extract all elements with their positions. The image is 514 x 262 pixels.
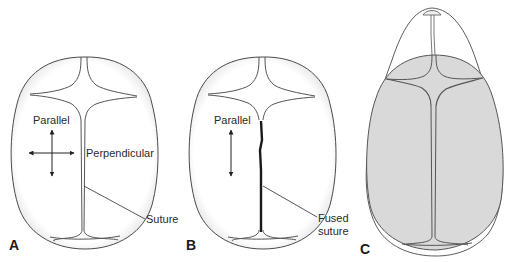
- label-suture-b: suture: [318, 225, 349, 237]
- panel-letter-b: B: [186, 237, 196, 253]
- panel-a: Parallel Perpendicular Suture A: [9, 57, 178, 253]
- label-perpendicular-a: Perpendicular: [86, 147, 154, 159]
- craniosynostosis-figure: Parallel Perpendicular Suture A Parallel…: [0, 0, 514, 262]
- panel-letter-a: A: [9, 237, 19, 253]
- label-parallel-b: Parallel: [214, 114, 251, 126]
- label-suture-a: Suture: [146, 213, 178, 225]
- panel-b: Parallel Fused suture B: [186, 57, 349, 253]
- panel-c: C: [360, 8, 503, 257]
- frontal-tip-c: [423, 11, 441, 16]
- panel-letter-c: C: [360, 241, 370, 257]
- label-parallel-a: Parallel: [33, 114, 70, 126]
- label-fused-b: Fused: [318, 212, 349, 224]
- skull-outline-b: [189, 57, 336, 249]
